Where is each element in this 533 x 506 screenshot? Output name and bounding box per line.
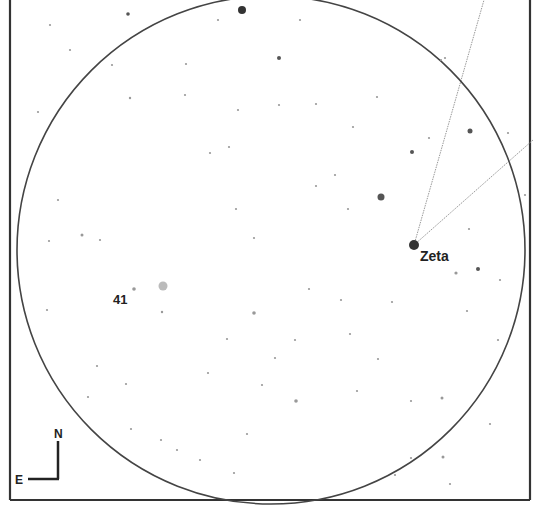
- north-label: N: [54, 427, 63, 441]
- star: [99, 239, 101, 241]
- star: [57, 199, 59, 201]
- field-of-view-circle: [17, 0, 525, 504]
- east-label: E: [15, 473, 23, 487]
- star: [37, 111, 39, 113]
- star: [468, 129, 473, 134]
- star: [261, 384, 263, 386]
- star: [87, 396, 89, 398]
- star: [299, 19, 301, 21]
- star: [340, 299, 342, 301]
- star: [184, 94, 186, 96]
- star: [315, 103, 317, 105]
- star: [185, 63, 187, 65]
- star: [226, 338, 228, 340]
- star: [308, 288, 310, 290]
- star: [132, 287, 136, 291]
- star: [69, 49, 71, 51]
- star: [454, 271, 457, 274]
- star: [347, 208, 349, 210]
- star: [428, 137, 430, 139]
- star: [294, 399, 298, 403]
- star: [507, 132, 509, 134]
- star: [48, 240, 50, 242]
- star: [409, 240, 419, 250]
- star: [315, 185, 317, 187]
- star: [391, 301, 393, 303]
- star: [277, 56, 281, 60]
- star: [497, 339, 499, 341]
- star: [176, 449, 178, 451]
- star: [161, 311, 163, 313]
- compass-indicator: N E: [15, 427, 63, 487]
- star: [235, 208, 237, 210]
- star: [410, 400, 412, 402]
- star: [252, 311, 256, 315]
- star: [209, 152, 211, 154]
- label-41: 41: [113, 292, 127, 307]
- star: [246, 433, 248, 435]
- star: [442, 456, 445, 459]
- star: [476, 267, 480, 271]
- star: [524, 194, 526, 196]
- star: [238, 6, 246, 14]
- star: [499, 279, 501, 281]
- star: [130, 428, 132, 430]
- star: [466, 310, 468, 312]
- star: [274, 357, 276, 359]
- star: [444, 57, 446, 59]
- star: [489, 423, 491, 425]
- star: [96, 365, 98, 367]
- pointer-line: [414, 140, 533, 245]
- star: [253, 237, 255, 239]
- star: [334, 174, 336, 176]
- star: [81, 234, 84, 237]
- star: [159, 282, 168, 291]
- pointer-line: [414, 0, 484, 245]
- star-chart: Zeta 41 N E: [0, 0, 533, 506]
- star: [125, 383, 127, 385]
- star: [49, 24, 51, 26]
- star: [410, 150, 414, 154]
- star: [378, 194, 385, 201]
- star: [199, 459, 201, 461]
- star: [377, 358, 379, 360]
- star: [294, 339, 296, 341]
- star: [356, 390, 358, 392]
- star: [278, 104, 280, 106]
- star: [46, 309, 48, 311]
- star: [468, 228, 470, 230]
- star: [233, 472, 235, 474]
- star: [441, 397, 444, 400]
- star: [449, 483, 451, 485]
- star: [376, 96, 378, 98]
- star: [129, 97, 131, 99]
- label-zeta: Zeta: [420, 248, 449, 264]
- star: [410, 457, 412, 459]
- star: [160, 439, 162, 441]
- star: [228, 146, 230, 148]
- star: [111, 64, 113, 66]
- star: [394, 474, 396, 476]
- star: [237, 109, 239, 111]
- star: [207, 372, 209, 374]
- star: [217, 19, 219, 21]
- pointer-lines: [414, 0, 533, 245]
- star: [349, 333, 351, 335]
- star: [352, 126, 354, 128]
- star: [126, 12, 130, 16]
- star: [440, 59, 442, 61]
- star-field: [37, 6, 526, 485]
